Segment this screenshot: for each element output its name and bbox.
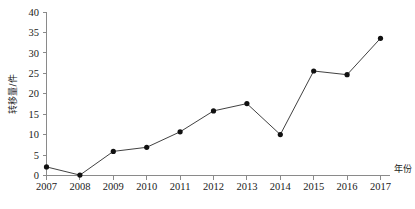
- x-tick-label: 2011: [170, 181, 191, 192]
- y-tick-label: 0: [34, 170, 39, 181]
- y-tick-label: 35: [29, 27, 40, 38]
- data-point: [278, 132, 283, 137]
- y-axis-ticks: [43, 12, 47, 175]
- data-point: [111, 149, 116, 154]
- y-tick-label: 10: [29, 129, 40, 140]
- data-point: [178, 129, 183, 134]
- x-tick-label: 2016: [337, 181, 358, 192]
- series-markers: [44, 36, 383, 178]
- x-axis-tick-labels: 2007 2008 2009 2010 2011 2012 2013 2014 …: [36, 181, 391, 192]
- data-point: [244, 101, 249, 106]
- y-tick-label: 30: [29, 48, 40, 59]
- data-point: [144, 145, 149, 150]
- x-tick-label: 2013: [236, 181, 257, 192]
- x-axis-ticks: [47, 176, 381, 180]
- x-tick-label: 2017: [370, 181, 391, 192]
- x-tick-label: 2009: [103, 181, 124, 192]
- y-tick-label: 5: [34, 150, 39, 161]
- data-point: [311, 68, 316, 73]
- data-point: [345, 72, 350, 77]
- y-tick-label: 25: [29, 68, 40, 79]
- data-point: [77, 173, 82, 178]
- x-tick-label: 2010: [136, 181, 157, 192]
- x-axis-title: 年份: [394, 163, 412, 174]
- data-point: [378, 36, 383, 41]
- y-tick-label: 15: [29, 109, 40, 120]
- figure-caption-clipped: [0, 200, 415, 209]
- chart-canvas: 0 5 10 15 20 25 30 35 40 2007 2008 2009 …: [0, 0, 415, 209]
- x-tick-label: 2014: [270, 181, 292, 192]
- y-axis-title: 转移量/件: [7, 74, 18, 113]
- line-chart: 0 5 10 15 20 25 30 35 40 2007 2008 2009 …: [0, 0, 415, 209]
- y-axis-tick-labels: 0 5 10 15 20 25 30 35 40: [29, 7, 40, 181]
- y-tick-label: 40: [29, 7, 40, 18]
- x-tick-label: 2012: [203, 181, 224, 192]
- series-line-zhuanyiliang: [47, 38, 381, 175]
- data-point: [211, 108, 216, 113]
- y-tick-label: 20: [29, 88, 40, 99]
- x-tick-label: 2007: [36, 181, 57, 192]
- data-point: [44, 164, 49, 169]
- x-tick-label: 2015: [303, 181, 324, 192]
- x-tick-label: 2008: [69, 181, 90, 192]
